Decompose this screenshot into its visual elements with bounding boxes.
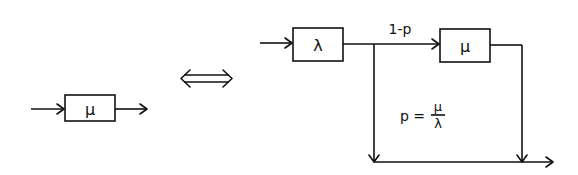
continue-probability-label: 1-p xyxy=(389,21,412,37)
left-single-server-network: μ xyxy=(31,95,147,121)
equivalence-double-arrow-icon xyxy=(181,70,232,87)
queue-equivalence-diagram: μ λ 1-p μ p = μ λ xyxy=(0,0,578,175)
bypass-probability-denominator: λ xyxy=(434,116,442,131)
left-mu-server-label: μ xyxy=(85,100,95,119)
bypass-probability-prefix: p = xyxy=(400,108,425,124)
right-mu-server-label: μ xyxy=(460,37,470,56)
lambda-server-label: λ xyxy=(313,36,322,55)
right-split-network: λ 1-p μ p = μ λ xyxy=(260,21,553,167)
bypass-probability-numerator: μ xyxy=(434,99,442,114)
